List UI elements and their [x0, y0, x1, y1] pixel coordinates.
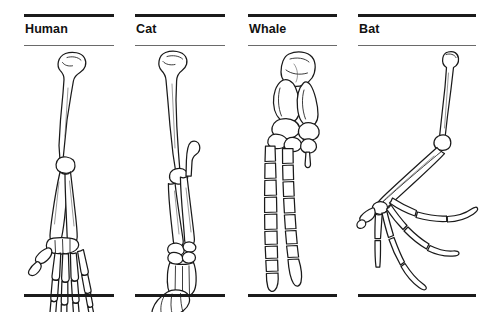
column-bottom-rule: [135, 294, 225, 297]
column-bat: Bat: [358, 0, 476, 312]
column-top-rule: [24, 14, 114, 17]
human-arm-skeleton-icon: [24, 48, 116, 283]
column-underline: [358, 45, 476, 46]
column-whale: Whale: [248, 0, 337, 312]
column-top-rule: [358, 14, 476, 17]
comparative-anatomy-figure: Human: [0, 0, 501, 312]
column-underline: [135, 45, 225, 46]
column-label-whale: Whale: [249, 22, 286, 36]
column-bottom-rule: [358, 294, 476, 297]
column-bottom-rule: [24, 294, 114, 297]
column-underline: [248, 45, 337, 46]
column-human: Human: [24, 0, 114, 312]
whale-flipper-skeleton-icon: [248, 48, 340, 283]
column-label-human: Human: [25, 22, 68, 36]
cat-foreleg-skeleton-icon: [135, 48, 227, 283]
column-underline: [24, 45, 114, 46]
column-label-bat: Bat: [359, 22, 379, 36]
bat-wing-skeleton-icon: [358, 48, 484, 283]
column-bottom-rule: [248, 294, 337, 297]
column-cat: Cat: [135, 0, 225, 312]
column-top-rule: [248, 14, 337, 17]
column-top-rule: [135, 14, 225, 17]
column-label-cat: Cat: [136, 22, 156, 36]
